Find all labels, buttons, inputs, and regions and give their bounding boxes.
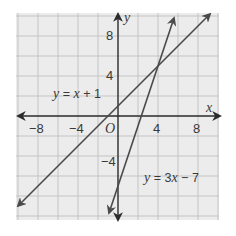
y-tick-4: 4 [106,68,113,83]
coordinate-plane: y x −8 −4 O 4 8 8 4 −4 y = x + 1 y = 3x … [0,0,236,236]
y-tick-minus-4: −4 [101,154,116,169]
equation-label-1: y = x + 1 [51,86,101,101]
y-tick-8: 8 [106,28,113,43]
x-tick-8: 8 [193,121,200,136]
y-axis-label: y [122,10,131,25]
x-axis-label: x [205,100,213,115]
x-tick-4: 4 [153,121,160,136]
origin-label: O [105,121,115,136]
x-tick-minus-8: −8 [29,121,44,136]
equation-label-2: y = 3x − 7 [142,170,199,185]
x-tick-minus-4: −4 [69,121,84,136]
